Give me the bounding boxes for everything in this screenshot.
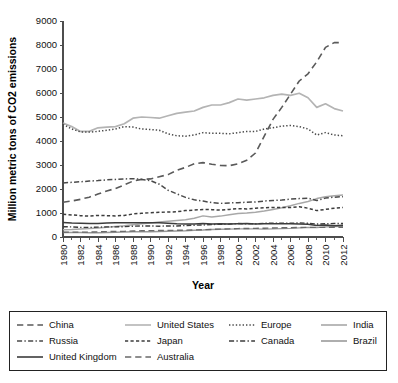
series-line-china bbox=[63, 43, 343, 203]
legend-item[interactable]: United Kingdom bbox=[16, 349, 124, 365]
legend-swatch-solid bbox=[16, 352, 44, 362]
legend-swatch-dash-dot bbox=[228, 336, 256, 346]
legend-grid: ChinaUnited StatesEuropeIndiaRussiaJapan… bbox=[16, 317, 382, 365]
legend-swatch-solid bbox=[320, 320, 348, 330]
legend-swatch-solid bbox=[124, 320, 152, 330]
series-line-europe bbox=[63, 124, 343, 136]
x-tick-label: 1986 bbox=[110, 245, 121, 266]
y-tick-label: 2000 bbox=[36, 183, 57, 194]
y-tick-label: 7000 bbox=[36, 63, 57, 74]
x-tick-label: 1990 bbox=[145, 245, 156, 266]
series-line-united-states bbox=[63, 93, 343, 131]
x-tick-label: 2004 bbox=[268, 245, 279, 266]
series-line-japan bbox=[63, 207, 343, 216]
legend-swatch-dash-dot bbox=[16, 336, 44, 346]
legend-swatch-short-dash bbox=[124, 336, 152, 346]
y-tick-label: 8000 bbox=[36, 39, 57, 50]
x-tick-label: 2012 bbox=[338, 245, 349, 266]
x-axis-title: Year bbox=[192, 279, 214, 291]
x-tick-label: 1988 bbox=[128, 245, 139, 266]
x-axis-ticks bbox=[63, 237, 343, 242]
legend-item[interactable]: Europe bbox=[228, 317, 320, 333]
y-tick-label: 3000 bbox=[36, 159, 57, 170]
data-series-group bbox=[63, 43, 343, 233]
x-tick-label: 2006 bbox=[285, 245, 296, 266]
legend-item[interactable]: China bbox=[16, 317, 124, 333]
legend-item-label: Russia bbox=[49, 336, 78, 346]
legend-item-label: Canada bbox=[261, 336, 294, 346]
plot-svg: 0100020003000400050006000700080009000 19… bbox=[0, 0, 398, 292]
legend-item-label: Europe bbox=[261, 320, 292, 330]
legend-item-label: India bbox=[353, 320, 374, 330]
x-tick-label: 1996 bbox=[198, 245, 209, 266]
x-tick-label: 2010 bbox=[320, 245, 331, 266]
x-axis-tick-labels: 1980198219841986198819901992199419961998… bbox=[58, 245, 349, 266]
legend-item-label: China bbox=[49, 320, 74, 330]
y-axis-title: Million metric tons of CO2 emissions bbox=[6, 37, 18, 222]
y-tick-label: 4000 bbox=[36, 135, 57, 146]
y-axis-tick-labels: 0100020003000400050006000700080009000 bbox=[36, 15, 57, 242]
x-tick-label: 2000 bbox=[233, 245, 244, 266]
x-tick-label: 1984 bbox=[93, 245, 104, 266]
legend-swatch-long-dash bbox=[124, 352, 152, 362]
legend-item[interactable]: Russia bbox=[16, 333, 124, 349]
legend-item[interactable]: Canada bbox=[228, 333, 320, 349]
y-tick-label: 0 bbox=[52, 231, 57, 242]
y-tick-label: 5000 bbox=[36, 111, 57, 122]
y-tick-label: 6000 bbox=[36, 87, 57, 98]
legend-item[interactable]: Brazil bbox=[320, 333, 386, 349]
plot-area: 0100020003000400050006000700080009000 19… bbox=[0, 0, 398, 292]
x-tick-label: 1982 bbox=[75, 245, 86, 266]
legend-swatch-dotted bbox=[228, 320, 256, 330]
legend-item[interactable]: India bbox=[320, 317, 386, 333]
legend-item-label: United States bbox=[157, 320, 214, 330]
legend-swatch-long-dash bbox=[16, 320, 44, 330]
legend-item[interactable]: United States bbox=[124, 317, 228, 333]
legend-item[interactable]: Australia bbox=[124, 349, 228, 365]
y-tick-label: 1000 bbox=[36, 207, 57, 218]
x-tick-label: 1998 bbox=[215, 245, 226, 266]
x-tick-label: 1994 bbox=[180, 245, 191, 266]
legend-swatch-solid bbox=[320, 336, 348, 346]
x-tick-label: 1980 bbox=[58, 245, 69, 266]
legend-item-label: Japan bbox=[157, 336, 183, 346]
chart-legend: ChinaUnited StatesEuropeIndiaRussiaJapan… bbox=[9, 311, 387, 371]
legend-item-label: Australia bbox=[157, 352, 194, 362]
y-tick-label: 9000 bbox=[36, 15, 57, 26]
x-tick-label: 2008 bbox=[303, 245, 314, 266]
legend-item-label: Brazil bbox=[353, 336, 377, 346]
legend-item-label: United Kingdom bbox=[49, 352, 117, 362]
legend-item[interactable]: Japan bbox=[124, 333, 228, 349]
co2-emissions-line-chart: 0100020003000400050006000700080009000 19… bbox=[0, 0, 398, 383]
x-tick-label: 1992 bbox=[163, 245, 174, 266]
x-tick-label: 2002 bbox=[250, 245, 261, 266]
